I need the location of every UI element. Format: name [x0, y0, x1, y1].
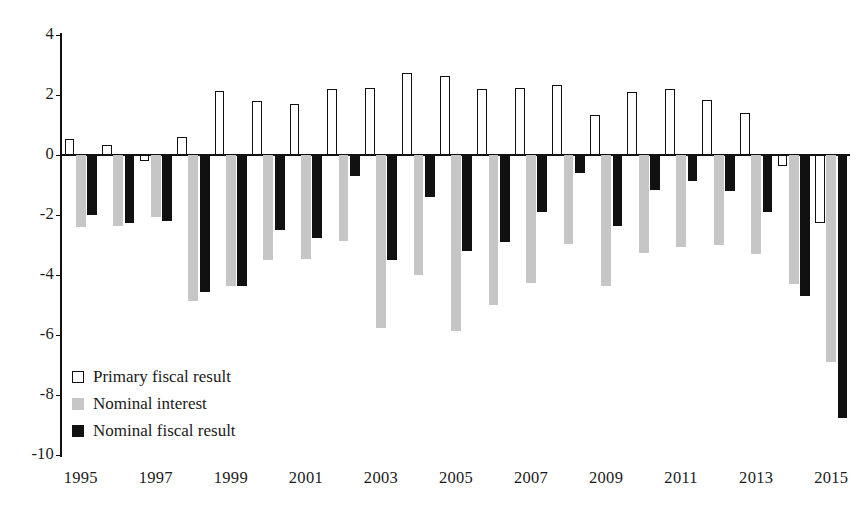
bar-2010-primary	[627, 92, 637, 155]
bar-2003-nominal	[387, 155, 397, 260]
bar-2010-nominal	[650, 155, 660, 190]
legend-item-nominal: Nominal fiscal result	[72, 417, 236, 444]
bar-1997-nominal	[162, 155, 172, 221]
x-tick-label-2007: 2007	[514, 470, 548, 487]
bar-2005-nominal	[462, 155, 472, 251]
bar-2011-interest	[676, 155, 686, 247]
bar-2014-nominal	[800, 155, 810, 296]
bar-2013-interest	[751, 155, 761, 254]
bar-2001-primary	[290, 104, 300, 155]
bar-2015-nominal	[838, 155, 848, 418]
bar-2004-nominal	[425, 155, 435, 197]
x-tick-label-1999: 1999	[214, 470, 248, 487]
bar-1998-interest	[188, 155, 198, 301]
bar-1995-primary	[65, 139, 75, 156]
legend-item-interest: Nominal interest	[72, 390, 236, 417]
bar-2010-interest	[639, 155, 649, 253]
bar-2015-interest	[826, 155, 836, 362]
bar-2000-interest	[263, 155, 273, 260]
bar-2009-primary	[590, 115, 600, 156]
bar-2015-primary	[815, 155, 825, 223]
x-tick-label-2015: 2015	[814, 470, 848, 487]
legend-item-primary: Primary fiscal result	[72, 363, 236, 390]
bar-1999-interest	[226, 155, 236, 286]
bar-1998-nominal	[200, 155, 210, 292]
legend-swatch-interest-icon	[72, 398, 84, 410]
bar-2013-primary	[740, 113, 750, 155]
bar-2005-primary	[440, 76, 450, 156]
legend-swatch-nominal-icon	[72, 425, 84, 437]
chart-legend: Primary fiscal resultNominal interestNom…	[72, 363, 236, 444]
bar-2000-primary	[252, 101, 262, 155]
bar-2013-nominal	[763, 155, 773, 212]
bar-2002-primary	[327, 89, 337, 155]
legend-label: Primary fiscal result	[93, 368, 231, 385]
bar-1996-nominal	[125, 155, 135, 223]
bar-2007-interest	[526, 155, 536, 283]
bar-2012-nominal	[725, 155, 735, 191]
bar-2008-primary	[552, 85, 562, 156]
bar-2005-interest	[451, 155, 461, 331]
bar-2006-nominal	[500, 155, 510, 242]
bar-2014-interest	[789, 155, 799, 284]
x-tick-label-2001: 2001	[289, 470, 323, 487]
bar-1998-primary	[177, 137, 187, 155]
bar-2012-primary	[702, 100, 712, 156]
bar-2006-primary	[477, 89, 487, 155]
legend-swatch-primary-icon	[72, 371, 84, 383]
bar-1997-interest	[151, 155, 161, 217]
x-tick-label-2011: 2011	[664, 470, 698, 487]
bar-2002-nominal	[350, 155, 360, 176]
bar-2006-interest	[489, 155, 499, 305]
bar-2011-primary	[665, 89, 675, 155]
bar-2000-nominal	[275, 155, 285, 230]
x-tick-label-1995: 1995	[64, 470, 98, 487]
bar-2008-nominal	[575, 155, 585, 173]
legend-label: Nominal interest	[93, 395, 207, 412]
legend-label: Nominal fiscal result	[93, 422, 236, 439]
bar-2004-interest	[414, 155, 424, 275]
bar-1999-primary	[215, 91, 225, 156]
fiscal-result-bar-chart: 420-2-4-6-8-10 1995199719992001200320052…	[0, 0, 857, 514]
bar-2012-interest	[714, 155, 724, 245]
bar-2003-interest	[376, 155, 386, 328]
x-tick-label-2005: 2005	[439, 470, 473, 487]
bar-2007-nominal	[537, 155, 547, 212]
bar-2007-primary	[515, 88, 525, 156]
bar-2009-nominal	[613, 155, 623, 226]
bar-2001-interest	[301, 155, 311, 259]
bar-1995-nominal	[87, 155, 97, 215]
bar-1999-nominal	[237, 155, 247, 286]
bar-2001-nominal	[312, 155, 322, 238]
bar-1995-interest	[76, 155, 86, 227]
bar-2008-interest	[564, 155, 574, 244]
x-tick-label-2009: 2009	[589, 470, 623, 487]
bar-2009-interest	[601, 155, 611, 286]
bar-1996-interest	[113, 155, 123, 226]
bar-2011-nominal	[688, 155, 698, 181]
x-tick-label-2003: 2003	[364, 470, 398, 487]
bar-2003-primary	[365, 88, 375, 156]
x-tick-label-1997: 1997	[139, 470, 173, 487]
x-tick-label-2013: 2013	[739, 470, 773, 487]
bar-2014-primary	[778, 155, 788, 166]
bar-2004-primary	[402, 73, 412, 156]
bar-1996-primary	[102, 145, 112, 156]
bar-2002-interest	[339, 155, 349, 241]
bar-1997-primary	[140, 155, 150, 161]
